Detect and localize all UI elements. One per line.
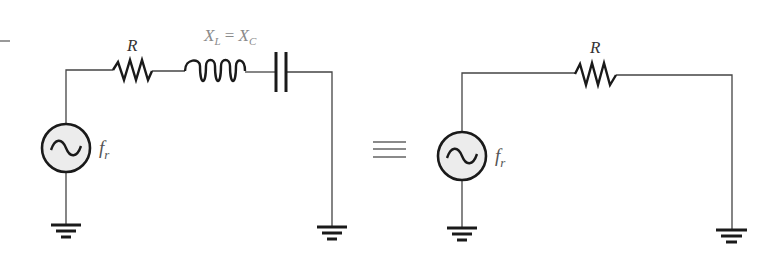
- right-circuit: R fr: [438, 38, 747, 242]
- right-wire-top-left: [462, 73, 575, 131]
- right-resistor-label: R: [589, 38, 601, 57]
- reactance-xc-main: X: [238, 26, 250, 45]
- reactance-xl-main: X: [203, 26, 215, 45]
- equivalence-symbol: [373, 142, 406, 157]
- circuit-diagram: R XL = XC fr R: [0, 0, 782, 261]
- right-wire-top-right: [616, 75, 732, 229]
- left-wire-c-to-ground: [286, 72, 332, 226]
- ac-source-icon: [438, 132, 486, 180]
- ground-icon: [51, 225, 81, 237]
- ground-icon: [317, 227, 347, 239]
- right-source-label: fr: [495, 145, 506, 170]
- left-source-label-sub: r: [104, 147, 110, 162]
- ground-icon: [447, 228, 477, 240]
- left-circuit: R XL = XC fr: [42, 26, 347, 239]
- inductor-icon: [185, 60, 245, 81]
- reactance-equality-label: XL = XC: [203, 26, 257, 47]
- left-source-label: fr: [99, 137, 110, 162]
- resistor-icon: [575, 63, 616, 85]
- left-resistor-label: R: [126, 36, 138, 55]
- left-wire-top-left: [66, 70, 113, 124]
- right-source-label-sub: r: [500, 155, 506, 170]
- ground-icon: [716, 230, 747, 242]
- reactance-equals: =: [221, 26, 239, 45]
- reactance-xl-sub: L: [213, 35, 220, 47]
- reactance-xc-sub: C: [249, 35, 257, 47]
- ac-source-icon: [42, 124, 90, 172]
- resistor-icon: [113, 60, 152, 80]
